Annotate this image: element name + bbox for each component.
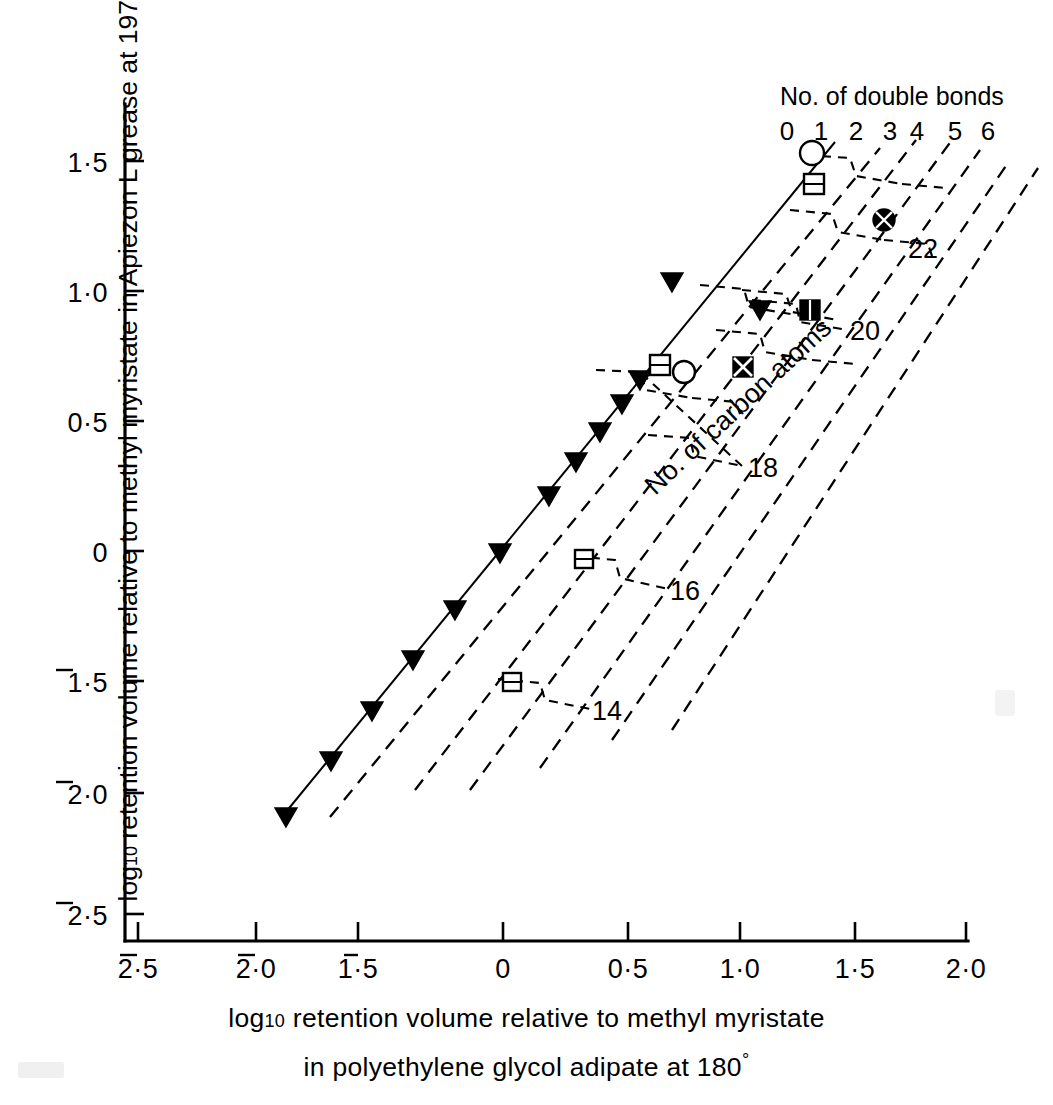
- legend-entry-1: 1: [814, 116, 828, 146]
- y-tick-label: 0·5: [67, 408, 108, 438]
- markers-series-6: [873, 209, 895, 231]
- y-axis-title: log10 retention volume relative to methy…: [112, 41, 145, 901]
- legend-entry-5: 5: [948, 116, 962, 146]
- y-tick-label: 1·0: [67, 278, 108, 308]
- x-tick-marks: [138, 922, 966, 941]
- legend-entry-0: 0: [780, 116, 794, 146]
- markers-series-0: [275, 273, 683, 827]
- legend-entry-4: 4: [910, 116, 924, 146]
- x-axis-title: log10 retention volume relative to methy…: [0, 1003, 1053, 1083]
- x-tick-labels: 2·5 2·0 1·5 0 0·5 1·0 1·5 2·0: [118, 954, 987, 984]
- chart-plot-area: 1·5 1·0 0·5 0 1·5 2·0 2·5 2·5 2·0 1·5 0 …: [0, 0, 1053, 1105]
- scan-artifact: [995, 690, 1015, 716]
- carbon-annotation-18: 18: [748, 453, 778, 483]
- legend-entry-3: 3: [883, 116, 897, 146]
- legend-entry-2: 2: [849, 116, 863, 146]
- y-tick-label: 2·5: [67, 901, 108, 931]
- y-tick-label: 2·0: [67, 780, 108, 810]
- y-tick-label: 1·5: [67, 148, 108, 178]
- x-tick-label: 0·5: [608, 954, 649, 984]
- x-axis-title-subscript: 10: [265, 1011, 286, 1031]
- x-axis-title-line1: log10 retention volume relative to methy…: [0, 1003, 1053, 1034]
- y-axis-title-prefix: log: [113, 866, 143, 901]
- y-axis-title-subscript: 10: [121, 846, 141, 866]
- x-tick-label: 1·0: [720, 954, 761, 984]
- x-axis-title-line2: in polyethylene glycol adipate at 180°: [0, 1050, 1053, 1083]
- x-axis-title-rest: retention volume relative to methyl myri…: [285, 1003, 825, 1033]
- chart-canvas: 1·5 1·0 0·5 0 1·5 2·0 2·5 2·5 2·0 1·5 0 …: [0, 0, 1053, 1105]
- series-line-6-double-bonds: [672, 168, 1038, 730]
- carbon-annotation-22: 22: [908, 234, 938, 264]
- y-tick-label: 1·5: [67, 668, 108, 698]
- x-tick-label: 2·0: [236, 954, 277, 984]
- legend: No. of double bonds 0 1 2 3 4 5 6: [780, 82, 1004, 146]
- axis-group: [125, 104, 968, 941]
- carbon-annotation-16: 16: [670, 576, 700, 606]
- carbon-annotation-14: 14: [592, 696, 622, 726]
- x-axis-title-degree: °: [742, 1050, 750, 1070]
- y-tick-labels: 1·5 1·0 0·5 0 1·5 2·0 2·5: [56, 148, 108, 931]
- x-tick-label: 1·5: [338, 954, 379, 984]
- scan-artifact-corner: [18, 1062, 64, 1078]
- x-tick-label: 2·5: [118, 954, 159, 984]
- x-tick-label: 0: [495, 954, 511, 984]
- x-tick-label: 1·5: [835, 954, 876, 984]
- x-axis-title-line2-text: in polyethylene glycol adipate at 180: [304, 1052, 742, 1082]
- y-tick-label: 0: [92, 538, 108, 568]
- legend-title: No. of double bonds: [780, 82, 1004, 110]
- carbon-annotation-20: 20: [850, 316, 880, 346]
- y-axis-title-rest: retention volume relative to methyl myri…: [113, 0, 143, 846]
- x-tick-label: 2·0: [946, 954, 987, 984]
- legend-entry-6: 6: [981, 116, 995, 146]
- x-axis-title-prefix: log: [228, 1003, 264, 1033]
